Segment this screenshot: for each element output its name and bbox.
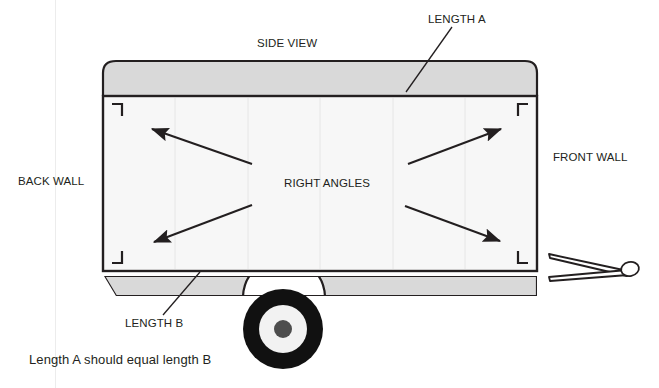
label-back-wall: BACK WALL [18, 176, 84, 188]
diagram-canvas: SIDE VIEW LENGTH A BACK WALL FRONT WALL … [0, 0, 659, 388]
roof-band [103, 61, 537, 96]
wheel [243, 289, 323, 369]
hub [274, 320, 292, 338]
trailer-diagram-svg [0, 0, 659, 388]
label-right-angles: RIGHT ANGLES [284, 178, 370, 190]
tow-hitch [549, 254, 640, 281]
label-front-wall: FRONT WALL [553, 152, 627, 164]
hitch-lower-rail [549, 270, 628, 281]
label-length-a: LENGTH A [428, 14, 486, 26]
diagram-caption: Length A should equal length B [29, 353, 211, 366]
label-side-view: SIDE VIEW [257, 38, 317, 50]
label-length-b: LENGTH B [125, 318, 183, 330]
